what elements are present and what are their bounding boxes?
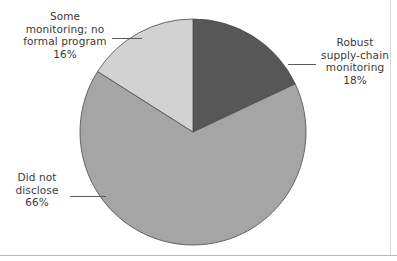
leader-line-robust	[288, 64, 316, 65]
pie-chart-figure: Some monitoring; no formal program 16% R…	[0, 0, 397, 261]
slice-label-some-monitoring: Some monitoring; no formal program 16%	[18, 10, 112, 60]
leader-line-some-monitoring	[112, 38, 142, 39]
slice-label-robust: Robust supply-chain monitoring 18%	[316, 36, 394, 86]
leader-line-did-not-disclose	[70, 196, 106, 197]
frame-border-right	[390, 0, 391, 256]
frame-border-bottom	[0, 255, 397, 256]
pie-slices-group	[80, 19, 306, 245]
slice-label-did-not-disclose: Did not disclose 66%	[6, 171, 68, 209]
